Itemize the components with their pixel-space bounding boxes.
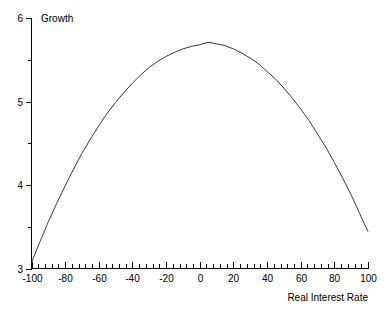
x-tick-label: 60 bbox=[296, 273, 308, 284]
x-tick-label: -60 bbox=[92, 273, 107, 284]
x-tick-label: -100 bbox=[22, 273, 42, 284]
y-tick-label: 6 bbox=[17, 13, 23, 24]
chart-background bbox=[0, 0, 390, 309]
x-tick-label: 100 bbox=[360, 273, 377, 284]
y-tick-label: 4 bbox=[17, 180, 23, 191]
x-tick-label: 20 bbox=[228, 273, 240, 284]
x-tick-label: 80 bbox=[329, 273, 341, 284]
y-axis-caption: Growth bbox=[41, 13, 73, 24]
x-tick-label: 40 bbox=[262, 273, 274, 284]
y-tick-label: 5 bbox=[17, 97, 23, 108]
x-axis-caption: Real Interest Rate bbox=[287, 292, 368, 303]
x-tick-label: -80 bbox=[58, 273, 73, 284]
x-tick-label: 0 bbox=[198, 273, 204, 284]
growth-vs-interest-rate-chart: 3456 -100-80-60-40-20020406080100 Growth… bbox=[0, 0, 390, 309]
x-tick-label: -20 bbox=[159, 273, 174, 284]
x-tick-label: -40 bbox=[125, 273, 140, 284]
chart-container: 3456 -100-80-60-40-20020406080100 Growth… bbox=[0, 0, 390, 309]
